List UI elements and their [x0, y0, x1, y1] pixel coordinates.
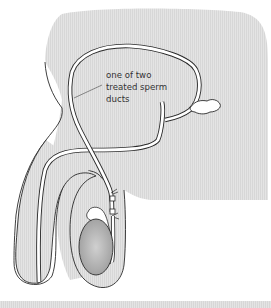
- label-line-3: ducts: [106, 94, 130, 104]
- bottom-stripe-band: [0, 301, 271, 308]
- label-line-1: one of two: [106, 70, 151, 80]
- testis: [79, 219, 113, 275]
- vasectomy-diagram: one of two treated sperm ducts: [0, 0, 271, 308]
- label-line-2: treated sperm: [106, 82, 167, 92]
